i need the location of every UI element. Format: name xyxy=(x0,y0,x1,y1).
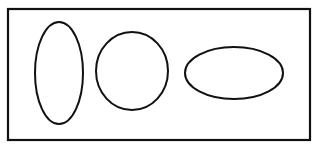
figure-background xyxy=(0,0,319,149)
figure-root: ― 分片分布 xyxy=(0,0,319,149)
figure-canvas xyxy=(0,0,319,149)
